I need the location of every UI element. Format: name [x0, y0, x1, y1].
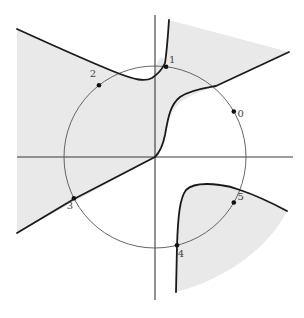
point-0 — [232, 109, 237, 114]
point-label-0: 0 — [238, 108, 244, 119]
diagram: 012345 — [0, 0, 304, 318]
point-label-3: 3 — [67, 200, 73, 211]
point-5 — [232, 200, 237, 205]
shaded-region-top-right — [155, 20, 289, 157]
shaded-region-lower-right — [176, 184, 287, 292]
point-label-1: 1 — [169, 54, 175, 65]
point-2 — [97, 83, 102, 88]
point-label-4: 4 — [178, 248, 184, 259]
point-1 — [164, 64, 169, 69]
point-4 — [175, 243, 180, 248]
point-label-5: 5 — [238, 191, 244, 202]
point-label-2: 2 — [90, 68, 96, 79]
